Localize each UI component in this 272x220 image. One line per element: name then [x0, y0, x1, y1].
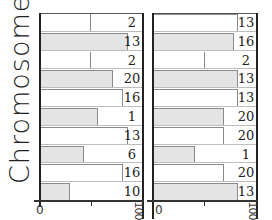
- bar-row: 20: [153, 126, 256, 145]
- x-axis-line: [34, 200, 144, 202]
- bar: [40, 14, 91, 32]
- bar-row: 13: [153, 13, 256, 32]
- row-value-label: 16: [122, 164, 142, 182]
- bar: [40, 127, 128, 145]
- bar-row: 20: [153, 163, 256, 182]
- bar-row: 13: [153, 69, 256, 88]
- row-value-label: 1: [122, 108, 142, 126]
- bar: [153, 14, 238, 32]
- bar: [153, 146, 195, 164]
- row-value-label: 1: [236, 146, 256, 164]
- bar: [153, 70, 238, 88]
- bar-row: 1: [40, 107, 142, 126]
- bar-row: 13: [40, 32, 142, 51]
- x-axis-line: [147, 200, 258, 202]
- row-value-label: 20: [236, 108, 256, 126]
- row-value-label: 13: [236, 14, 256, 32]
- row-value-label: 20: [122, 70, 142, 88]
- bar: [40, 33, 128, 51]
- x-tick-mid: [204, 201, 205, 206]
- bar: [153, 108, 224, 126]
- row-value-label: 13: [236, 183, 256, 201]
- y-axis-label: Chromosomes: [3, 34, 37, 184]
- row-value-label: 10: [122, 183, 142, 201]
- bar-row: 16: [153, 32, 256, 51]
- x-tick-label-zero: 0: [36, 203, 44, 217]
- bar: [40, 146, 84, 164]
- row-value-label: 13: [236, 70, 256, 88]
- row-value-label: 13: [122, 33, 142, 51]
- row-value-label: 2: [236, 52, 256, 70]
- bar-row: 2: [40, 13, 142, 32]
- bar: [40, 52, 91, 70]
- row-value-label: 2: [122, 14, 142, 32]
- row-value-label: 20: [236, 164, 256, 182]
- x-tick-label-zero: 0: [155, 203, 163, 217]
- bar: [40, 70, 113, 88]
- bar-row: 13: [40, 126, 142, 145]
- row-value-label: 16: [122, 89, 142, 107]
- bar: [40, 89, 123, 107]
- chart-panel-left: 2132201611361610 0 100: [40, 13, 142, 201]
- bar-row: 16: [40, 163, 142, 182]
- y-axis-line: [39, 13, 41, 207]
- bar: [153, 89, 238, 107]
- y-axis-line: [152, 13, 154, 219]
- bar-row: 13: [153, 88, 256, 107]
- bar-row: 2: [40, 51, 142, 70]
- bar: [40, 164, 123, 182]
- frame-right-line: [142, 13, 144, 219]
- row-value-label: 20: [236, 127, 256, 145]
- row-value-label: 13: [236, 89, 256, 107]
- bar-row: 20: [153, 107, 256, 126]
- bar: [40, 183, 70, 201]
- x-tick-label-end: 100: [246, 202, 259, 220]
- bar: [40, 108, 98, 126]
- x-tick-label-end: 100: [132, 202, 145, 220]
- bar-row: 20: [40, 69, 142, 88]
- bar-row: 6: [40, 145, 142, 164]
- bar-row: 1: [153, 145, 256, 164]
- row-value-label: 6: [122, 146, 142, 164]
- frame-right-line: [256, 13, 258, 219]
- bar-row: 16: [40, 88, 142, 107]
- bar-row: 10: [40, 182, 142, 201]
- bar: [153, 127, 224, 145]
- bar-row: 13: [153, 182, 256, 201]
- row-value-label: 2: [122, 52, 142, 70]
- bar: [153, 33, 234, 51]
- chart-panel-right: 131621313202012013 0 100: [153, 13, 256, 201]
- bar-row: 2: [153, 51, 256, 70]
- x-tick-mid: [91, 201, 92, 206]
- row-value-label: 16: [236, 33, 256, 51]
- bar: [153, 52, 205, 70]
- bar: [153, 183, 238, 201]
- bar: [153, 164, 224, 182]
- row-value-label: 13: [122, 127, 142, 145]
